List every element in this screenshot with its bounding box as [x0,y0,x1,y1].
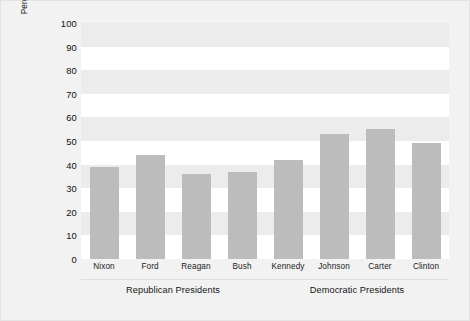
bar [90,167,119,259]
bar-series [81,23,449,259]
x-axis-tick-label: Reagan [173,262,219,276]
bar [412,143,441,259]
y-axis-tick-label: 20 [66,206,77,217]
bar [366,129,395,259]
x-axis-tick-label: Johnson [311,262,357,276]
y-axis-tick-label: 80 [66,65,77,76]
x-axis-tick-labels: NixonFordReaganBushKennedyJohnsonCarterC… [81,262,449,276]
y-axis-tick-label: 30 [66,183,77,194]
bar-cell [173,23,219,259]
group-labels: Republican PresidentsDemocratic Presiden… [81,285,449,301]
bar-cell [403,23,449,259]
bar [136,155,165,259]
y-axis-tick-label: 60 [66,112,77,123]
bar-cell [265,23,311,259]
bar [274,160,303,259]
bar-chart-figure: Policy Direction of Decision Percentage … [0,0,470,321]
bar-cell [219,23,265,259]
bar [320,134,349,259]
bar-cell [311,23,357,259]
x-axis-tick-label: Clinton [403,262,449,276]
x-axis-tick-label: Bush [219,262,265,276]
group-label: Republican Presidents [81,285,265,301]
group-separator-line [81,279,449,280]
bar-cell [357,23,403,259]
y-axis-tick-label: 0 [72,254,77,265]
y-axis-tick-label: 50 [66,136,77,147]
y-axis-tick-label: 90 [66,41,77,52]
y-axis-tick-label: 70 [66,88,77,99]
y-axis-tick-label: 10 [66,230,77,241]
plot-area [81,23,449,259]
x-axis-tick-label: Nixon [81,262,127,276]
x-axis-tick-label: Ford [127,262,173,276]
y-axis-tick-label: 100 [61,18,77,29]
bar [228,172,257,259]
y-axis-title: Policy Direction of Decision Percentage … [19,0,41,37]
bar-cell [81,23,127,259]
group-label: Democratic Presidents [265,285,449,301]
y-axis-title-line2: Percentage Liberal [19,0,30,14]
bar-cell [127,23,173,259]
x-axis-tick-label: Kennedy [265,262,311,276]
y-axis-tick-labels: 1009080706050403020100 [45,23,77,259]
y-axis-tick-label: 40 [66,159,77,170]
bar [182,174,211,259]
x-axis-tick-label: Carter [357,262,403,276]
